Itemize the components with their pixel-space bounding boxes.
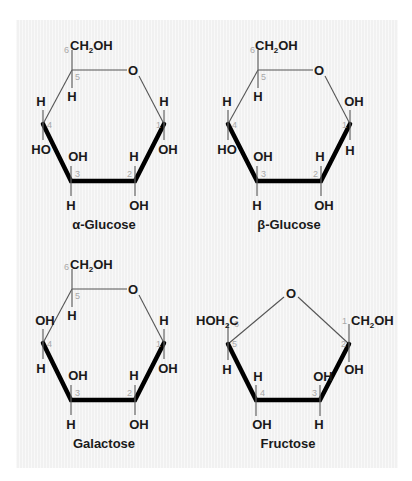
c2-down: OH — [129, 417, 149, 432]
carbon-number-2: 2 — [127, 388, 132, 398]
c3-down: H — [66, 198, 75, 213]
carbon-number-2: 2 — [313, 169, 318, 179]
c3-up: OH — [313, 369, 333, 384]
ring-bond-front — [228, 124, 350, 181]
carbon-number-5: 5 — [75, 72, 80, 82]
c1-up: OH — [344, 94, 364, 109]
galactose-structure: O 6 5 4 3 2 1 CH2OH H OH H OH H H OH H O… — [35, 257, 178, 451]
ring-oxygen: O — [128, 63, 138, 78]
ring-bond-front — [43, 124, 164, 181]
c4-down: OH — [252, 417, 272, 432]
carbon-number-2: 2 — [341, 339, 346, 349]
carbon-number-1: 1 — [156, 339, 161, 349]
sugar-structures-figure: O 6 5 4 3 2 1 CH2OH H H HO OH H H OH H O… — [0, 0, 412, 481]
c4-up: OH — [35, 313, 55, 328]
carbon-number-1: 1 — [342, 316, 347, 326]
c6-group: CH2OH — [255, 38, 298, 55]
ring-oxygen: O — [286, 286, 296, 301]
c4-up: H — [253, 369, 262, 384]
fructose-label: Fructose — [261, 436, 316, 451]
fructose-structure: O 6 5 4 3 2 1 HOH2C CH2OH H H OH OH H OH… — [196, 286, 394, 451]
c3-down: H — [66, 417, 75, 432]
carbon-number-3: 3 — [75, 388, 80, 398]
carbon-number-3: 3 — [75, 169, 80, 179]
c2-down: OH — [129, 198, 149, 213]
carbon-number-2: 2 — [127, 169, 132, 179]
c3-up: OH — [68, 368, 88, 383]
carbon-number-5: 5 — [261, 72, 266, 82]
c4-up: H — [36, 94, 45, 109]
carbon-number-1: 1 — [156, 120, 161, 130]
beta-glucose-structure: O 6 5 4 3 2 1 CH2OH H H HO OH H H OH OH … — [217, 38, 364, 232]
c1-up: H — [159, 94, 168, 109]
c1-down: OH — [158, 142, 178, 157]
ring-oxygen: O — [128, 282, 138, 297]
c6-group: CH2OH — [70, 38, 113, 55]
c5-down: H — [253, 89, 262, 104]
ring-oxygen: O — [314, 63, 324, 78]
c3-down: H — [314, 417, 323, 432]
c5-down: H — [67, 89, 76, 104]
c1-down: H — [345, 143, 354, 158]
carbon-number-6: 6 — [64, 45, 69, 55]
c4-up: H — [222, 94, 231, 109]
c5-down: H — [222, 362, 231, 377]
c2-down: OH — [314, 198, 334, 213]
carbon-number-3: 3 — [312, 388, 317, 398]
c3-up: OH — [253, 149, 273, 164]
c2-up: H — [315, 149, 324, 164]
galactose-label: Galactose — [73, 436, 135, 451]
alpha-glucose-label: α-Glucose — [72, 217, 136, 232]
carbon-number-4: 4 — [47, 339, 52, 349]
carbon-number-5: 5 — [232, 339, 237, 349]
c4-down: HO — [31, 142, 51, 157]
carbon-number-4: 4 — [232, 120, 237, 130]
ring-bond-front — [43, 343, 164, 400]
beta-glucose-label: β-Glucose — [257, 217, 321, 232]
c3-up: OH — [68, 149, 88, 164]
c1-group: CH2OH — [351, 313, 394, 330]
carbon-number-5: 5 — [75, 291, 80, 301]
c1-down: OH — [158, 361, 178, 376]
carbon-number-4: 4 — [47, 120, 52, 130]
c5-down: H — [67, 308, 76, 323]
carbon-number-6: 6 — [64, 262, 69, 272]
carbon-number-1: 1 — [342, 120, 347, 130]
c6-group: CH2OH — [70, 257, 113, 274]
c2-up: H — [129, 149, 138, 164]
c4-down: H — [36, 361, 45, 376]
carbon-number-4: 4 — [260, 388, 265, 398]
alpha-glucose-structure: O 6 5 4 3 2 1 CH2OH H H HO OH H H OH H O… — [31, 38, 178, 232]
c4-down: HO — [217, 142, 237, 157]
c6-group: HOH2C — [196, 313, 239, 330]
c2-down: OH — [344, 362, 364, 377]
c1-up: H — [159, 313, 168, 328]
carbon-number-3: 3 — [261, 169, 266, 179]
c2-up: H — [129, 368, 138, 383]
c3-down: H — [252, 198, 261, 213]
